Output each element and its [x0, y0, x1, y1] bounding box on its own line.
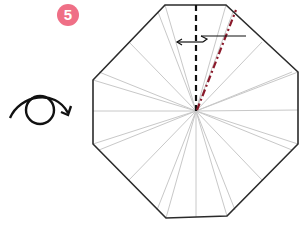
fold-arrow-icon — [177, 36, 246, 45]
mountain-fold-line — [197, 10, 236, 110]
turn-over-icon — [10, 96, 71, 124]
origami-diagram — [0, 0, 307, 226]
